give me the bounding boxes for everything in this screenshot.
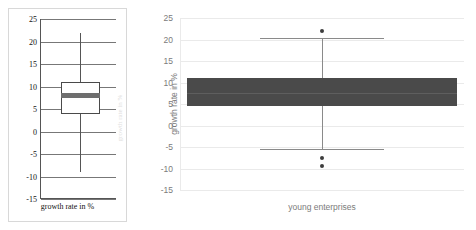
y-axis-tick-label: 20 (29, 37, 37, 46)
y-axis-tick-label: 0 (168, 121, 173, 131)
outlier-point (320, 29, 324, 33)
outlier-point (320, 164, 324, 168)
outlier-point (320, 156, 324, 160)
y-axis-tick-label: -10 (161, 164, 173, 174)
gridline (41, 177, 116, 178)
gridline (41, 199, 116, 200)
y-axis-tick-label: 5 (33, 105, 37, 114)
gridline (41, 64, 116, 65)
median-line (187, 93, 457, 94)
right-boxplot-chart: growth rate in % -15-10-50510152025 youn… (132, 4, 472, 228)
gridline (41, 154, 116, 155)
screenshot-root: -15-10-50510152025 growth rate in % grow… (0, 0, 476, 230)
y-axis-tick-label: 0 (33, 127, 37, 136)
y-axis-tick-label: -15 (161, 185, 173, 195)
y-axis-tick-label: 10 (164, 78, 173, 88)
y-axis-tick-label: 25 (29, 15, 37, 24)
right-plot-area: growth rate in % -15-10-50510152025 (180, 18, 464, 190)
ghost-axis-label: growth rate in % (116, 95, 124, 142)
gridline (180, 18, 464, 19)
y-axis-tick-label: -5 (165, 142, 173, 152)
y-axis-line (180, 18, 181, 190)
y-axis-tick-label: -5 (30, 150, 37, 159)
gridline (41, 19, 116, 20)
left-boxplot-chart: -15-10-50510152025 growth rate in % (8, 8, 127, 222)
y-axis-tick-label: 15 (164, 56, 173, 66)
gridline (41, 132, 116, 133)
gridline (180, 169, 464, 170)
y-axis-tick-label: -10 (26, 172, 37, 181)
upper-whisker-cap (260, 38, 384, 39)
gridline (180, 190, 464, 191)
y-axis-tick-label: 20 (164, 35, 173, 45)
right-x-axis-label: young enterprises (180, 202, 464, 212)
y-axis-tick-label: 25 (164, 13, 173, 23)
gridline (41, 42, 116, 43)
left-x-axis-label: growth rate in % (9, 202, 126, 211)
y-axis-tick-label: 10 (29, 82, 37, 91)
median-line (61, 93, 101, 98)
left-plot-area: -15-10-50510152025 (40, 19, 116, 199)
y-axis-tick-label: 5 (168, 99, 173, 109)
y-axis-tick-label: 15 (29, 60, 37, 69)
lower-whisker-cap (260, 149, 384, 150)
